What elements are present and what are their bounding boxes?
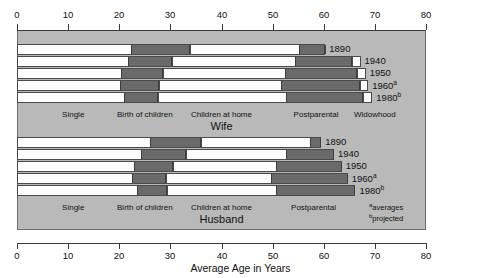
bar-segment-postparental: [286, 93, 363, 102]
axis-tick-label: 50: [268, 250, 279, 261]
stage-label-single: Single: [62, 110, 84, 119]
bar-segment-postparental: [299, 45, 325, 54]
bar-year-text: 1950: [370, 67, 391, 78]
bar-segment-postparental: [276, 186, 356, 195]
stage-label-birth-of-children: Birth of children: [117, 203, 173, 212]
group-label-husband: Husband: [199, 213, 243, 225]
axis-tick-label: 40: [217, 250, 228, 261]
bar-year-text: 1980: [376, 92, 397, 103]
bar-segment-postparental: [281, 81, 360, 90]
bar-segment-single: [17, 162, 134, 171]
axis-tick: [222, 243, 223, 249]
bar-segment-birth-of-children: [150, 138, 201, 147]
bar-segment-birth-of-children: [128, 57, 172, 66]
axis-tick-label: 60: [319, 250, 330, 261]
axis-tick-label: 50: [268, 9, 279, 20]
bar-segment-single: [17, 69, 121, 78]
bar-year-footnote-marker: b: [397, 91, 401, 98]
axis-tick: [375, 243, 376, 249]
bar-wife-1950: [17, 68, 366, 79]
bar-segment-children-at-home: [159, 81, 281, 90]
bar-segment-widowhood: [352, 57, 360, 66]
axis-tick-label: 80: [421, 9, 432, 20]
axis-tick-label: 0: [14, 9, 19, 20]
x-axis-title: Average Age in Years: [0, 262, 481, 274]
axis-tick: [426, 24, 427, 30]
bar-segment-single: [17, 186, 137, 195]
axis-tick: [375, 24, 376, 30]
axis-tick-label: 40: [217, 9, 228, 20]
group-label-wife: Wife: [211, 120, 233, 132]
bar-segment-birth-of-children: [134, 162, 173, 171]
bar-segment-widowhood: [325, 45, 326, 54]
bar-wife-1940: [17, 56, 361, 67]
axis-tick: [17, 24, 18, 30]
axis-tick: [324, 243, 325, 249]
bar-year-label: 1960a: [352, 172, 377, 184]
bar-wife-1890: [17, 44, 325, 55]
bar-segment-children-at-home: [172, 57, 295, 66]
stage-label-postparental: Postparental: [294, 110, 339, 119]
axis-tick-label: 30: [165, 250, 176, 261]
axis-tick-label: 70: [370, 250, 381, 261]
bar-segment-children-at-home: [201, 138, 310, 147]
bar-year-label: 1960a: [372, 79, 397, 91]
bar-segment-single: [17, 138, 150, 147]
top-axis-line: [17, 30, 426, 31]
bar-year-text: 1950: [346, 160, 367, 171]
stage-label-children-at-home: Children at home: [191, 203, 252, 212]
stage-label-children-at-home: Children at home: [191, 110, 252, 119]
bar-segment-birth-of-children: [124, 93, 157, 102]
bar-wife-1980: [17, 92, 372, 103]
axis-tick-label: 80: [421, 250, 432, 261]
bar-segment-single: [17, 93, 124, 102]
bar-year-footnote-marker: a: [373, 172, 377, 179]
bar-year-text: 1960: [352, 173, 373, 184]
axis-tick: [324, 24, 325, 30]
bar-segment-children-at-home: [158, 93, 286, 102]
bar-year-text: 1940: [338, 148, 359, 159]
bar-year-text: 1890: [329, 43, 350, 54]
bar-segment-children-at-home: [167, 186, 276, 195]
bar-segment-widowhood: [360, 81, 368, 90]
bar-segment-birth-of-children: [141, 150, 185, 159]
bar-segment-widowhood: [363, 93, 372, 102]
stage-label-postparental: Postparental: [291, 203, 336, 212]
bar-husband-1890: [17, 137, 321, 148]
axis-tick: [119, 243, 120, 249]
axis-tick: [68, 24, 69, 30]
axis-tick: [119, 24, 120, 30]
bar-segment-single: [17, 174, 132, 183]
bar-husband-1950: [17, 161, 342, 172]
axis-tick: [68, 243, 69, 249]
bar-segment-birth-of-children: [132, 174, 166, 183]
axis-tick-label: 0: [14, 250, 19, 261]
axis-tick-label: 20: [114, 250, 125, 261]
bar-segment-postparental: [286, 150, 334, 159]
axis-tick: [273, 24, 274, 30]
bar-year-text: 1890: [325, 136, 346, 147]
axis-tick: [222, 24, 223, 30]
bar-husband-1940: [17, 149, 334, 160]
bar-segment-birth-of-children: [120, 81, 159, 90]
bar-segment-birth-of-children: [121, 69, 163, 78]
bar-segment-single: [17, 150, 141, 159]
bar-segment-single: [17, 81, 120, 90]
bar-segment-children-at-home: [173, 162, 276, 171]
axis-tick: [170, 243, 171, 249]
bar-year-label: 1890: [325, 136, 346, 147]
stage-label-single: Single: [62, 203, 84, 212]
bar-year-footnote-marker: a: [393, 79, 397, 86]
bar-year-text: 1940: [365, 55, 386, 66]
stage-label-birth-of-children: Birth of children: [117, 110, 173, 119]
bar-year-text: 1960: [372, 80, 393, 91]
bar-year-text: 1980: [359, 185, 380, 196]
bar-year-label: 1950: [370, 67, 391, 78]
bar-year-label: 1890: [329, 43, 350, 54]
chart-figure: 01020304050607080 01020304050607080 1890…: [0, 0, 481, 278]
stage-label-widowhood: Widowhood: [354, 110, 396, 119]
bar-year-label: 1940: [338, 148, 359, 159]
axis-tick: [273, 243, 274, 249]
bar-husband-1960: [17, 173, 348, 184]
footnote-b: bprojected: [369, 211, 403, 224]
